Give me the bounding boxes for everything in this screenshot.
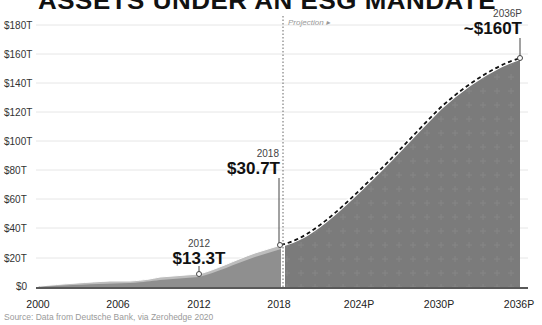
- y-tick: $180T: [4, 20, 32, 31]
- annotation-value: $13.3T: [173, 249, 227, 268]
- y-tick: $0: [16, 281, 28, 292]
- x-tick: 2012: [187, 298, 211, 310]
- projection-label: Projection ▸: [288, 18, 331, 27]
- y-tick: $140T: [4, 78, 32, 89]
- y-tick: $100T: [4, 136, 32, 147]
- x-tick: 2006: [106, 298, 130, 310]
- annotation-year: 2018: [257, 148, 280, 159]
- marker-2036: [518, 56, 523, 61]
- projection-area: [281, 58, 520, 287]
- annotation-2036: 2036P ~$160T: [464, 8, 523, 61]
- annotation-value: ~$160T: [464, 19, 523, 38]
- y-tick: $40T: [4, 223, 27, 234]
- annotation-year: 2012: [188, 238, 211, 249]
- annotation-value: $30.7T: [227, 159, 281, 178]
- marker-2012: [197, 272, 202, 277]
- x-tick: 2018: [267, 298, 291, 310]
- y-axis-labels: $180T $160T $140T $120T $100T $80T $60T …: [4, 20, 32, 292]
- x-tick: 2024P: [344, 298, 374, 310]
- x-tick: 2030P: [424, 298, 454, 310]
- x-tick: 2036P: [504, 298, 534, 310]
- annotation-2018: 2018 $30.7T: [227, 148, 282, 248]
- y-tick: $60T: [4, 194, 27, 205]
- historical-area: [38, 245, 281, 287]
- x-tick: 2000: [26, 298, 50, 310]
- y-tick: $160T: [4, 49, 32, 60]
- source-note: Source: Data from Deutsche Bank, via Zer…: [4, 312, 213, 322]
- esg-assets-chart: $180T $160T $140T $120T $100T $80T $60T …: [0, 0, 542, 325]
- y-tick: $120T: [4, 107, 32, 118]
- y-tick: $80T: [4, 165, 27, 176]
- annotation-year: 2036P: [493, 8, 522, 19]
- marker-2018: [278, 243, 283, 248]
- x-axis-labels: 2000 2006 2012 2018 2024P 2030P 2036P: [26, 298, 534, 310]
- y-tick: $20T: [4, 253, 27, 264]
